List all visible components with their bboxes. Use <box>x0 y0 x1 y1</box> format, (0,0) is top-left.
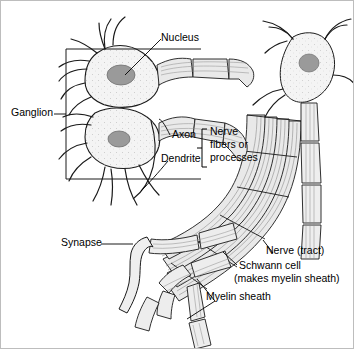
axon-upper-right <box>301 103 321 259</box>
label-axon: Axon <box>172 129 196 141</box>
neuron-cell-body-upper-left <box>59 17 159 115</box>
label-nerve-fibers-line1: Nerve <box>210 126 238 138</box>
label-ganglion: Ganglion <box>11 107 53 119</box>
label-nerve-fibers-line3: processes <box>210 152 258 164</box>
label-myelin-sheath: Myelin sheath <box>206 291 271 303</box>
nucleus-lower-left <box>108 131 130 147</box>
neuron-diagram-artwork <box>1 1 354 349</box>
label-schwann-cell-line1: Schwann cell <box>239 260 301 272</box>
label-nerve-fibers-line2: fibers or <box>210 139 248 151</box>
nucleus-upper-left <box>107 65 135 85</box>
label-nerve-tract: Nerve (tract) <box>266 245 324 257</box>
nucleus-upper-right <box>299 54 319 72</box>
label-synapse: Synapse <box>61 237 102 249</box>
label-dendrite: Dendrite <box>161 153 201 165</box>
label-schwann-cell-line2: (makes myelin sheath) <box>234 273 340 285</box>
figure-canvas: Nucleus Ganglion Axon Dendrite Nerve fib… <box>0 0 354 349</box>
label-nucleus: Nucleus <box>161 32 199 44</box>
neuron-cell-body-lower-left <box>59 108 160 205</box>
neuron-cell-body-upper-right <box>253 19 354 117</box>
